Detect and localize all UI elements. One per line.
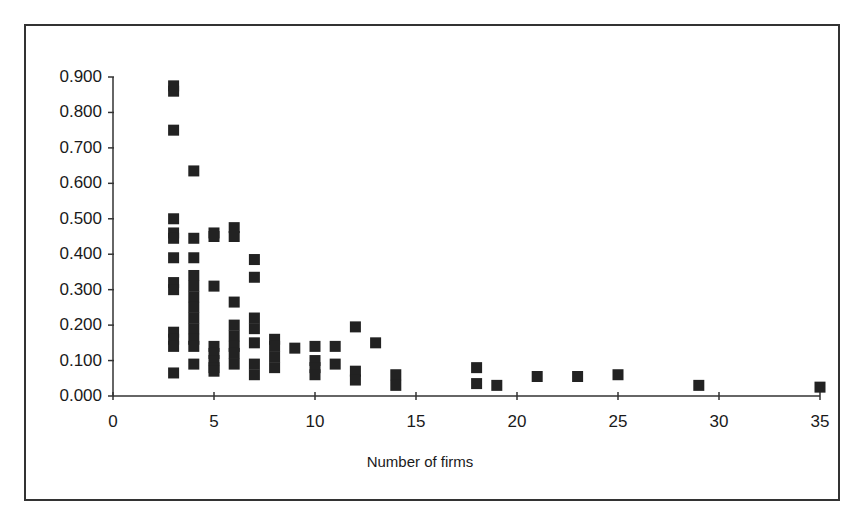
data-point — [532, 371, 543, 382]
data-point — [249, 272, 260, 283]
data-point — [168, 213, 179, 224]
data-point — [330, 359, 341, 370]
data-point — [572, 371, 583, 382]
data-point — [491, 380, 502, 391]
x-tick-label: 0 — [93, 412, 133, 432]
x-tick-label: 10 — [295, 412, 335, 432]
data-point — [188, 313, 199, 324]
data-point — [209, 366, 220, 377]
data-point — [168, 367, 179, 378]
data-point — [249, 313, 260, 324]
x-tick-label: 5 — [194, 412, 234, 432]
data-point — [249, 369, 260, 380]
data-point — [168, 252, 179, 263]
data-point — [229, 359, 240, 370]
data-point — [390, 380, 401, 391]
x-tick-label: 35 — [800, 412, 840, 432]
data-point — [188, 233, 199, 244]
data-point — [350, 321, 361, 332]
data-point — [168, 233, 179, 244]
data-point — [390, 369, 401, 380]
data-point — [471, 362, 482, 373]
data-point — [188, 341, 199, 352]
data-point — [289, 343, 300, 354]
y-tick-label: 0.500 — [40, 209, 102, 229]
data-point — [209, 281, 220, 292]
data-point — [613, 369, 624, 380]
data-point — [168, 86, 179, 97]
data-point — [188, 270, 199, 281]
x-tick-label: 20 — [497, 412, 537, 432]
data-point — [188, 302, 199, 313]
x-tick-label: 30 — [699, 412, 739, 432]
x-tick-label: 15 — [396, 412, 436, 432]
scatter-plot — [0, 0, 864, 527]
data-point — [209, 231, 220, 242]
y-tick-label: 0.800 — [40, 102, 102, 122]
data-point — [693, 380, 704, 391]
data-point — [350, 375, 361, 386]
data-point — [310, 341, 321, 352]
data-point — [168, 284, 179, 295]
data-point — [249, 254, 260, 265]
data-point — [168, 125, 179, 136]
data-point — [188, 165, 199, 176]
y-tick-label: 0.300 — [40, 280, 102, 300]
y-tick-label: 0.700 — [40, 138, 102, 158]
y-tick-label: 0.900 — [40, 67, 102, 87]
data-point — [370, 337, 381, 348]
data-point — [188, 323, 199, 334]
data-point — [471, 378, 482, 389]
y-tick-label: 0.600 — [40, 173, 102, 193]
x-axis-title: Number of firms — [300, 453, 540, 470]
y-tick-label: 0.100 — [40, 351, 102, 371]
data-point — [330, 341, 341, 352]
data-points — [168, 80, 825, 392]
data-point — [269, 341, 280, 352]
y-tick-label: 0.200 — [40, 315, 102, 335]
data-point — [310, 369, 321, 380]
data-point — [188, 252, 199, 263]
data-point — [229, 330, 240, 341]
y-tick-label: 0.400 — [40, 244, 102, 264]
data-point — [229, 320, 240, 331]
data-point — [229, 297, 240, 308]
data-point — [229, 348, 240, 359]
data-point — [249, 359, 260, 370]
data-point — [229, 231, 240, 242]
data-point — [249, 337, 260, 348]
data-point — [249, 323, 260, 334]
data-point — [269, 362, 280, 373]
data-point — [269, 352, 280, 363]
y-tick-label: 0.000 — [40, 386, 102, 406]
data-point — [815, 382, 826, 393]
data-point — [168, 341, 179, 352]
data-point — [188, 359, 199, 370]
x-tick-label: 25 — [598, 412, 638, 432]
data-point — [188, 291, 199, 302]
data-point — [188, 281, 199, 292]
